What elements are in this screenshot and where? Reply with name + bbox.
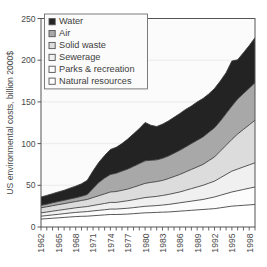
stacked-area-chart: 050100150200250 196219651968197119741977…: [0, 0, 267, 267]
x-tick-label: 1968: [71, 233, 81, 252]
x-tick-label: 1971: [88, 233, 98, 252]
x-tick-label: 1995: [227, 233, 237, 252]
legend-label-solid-waste: Solid waste: [59, 40, 106, 50]
legend-swatch-sewerage: [49, 54, 55, 60]
x-tick-label: 1992: [210, 233, 220, 252]
x-tick-label: 1983: [158, 233, 168, 252]
x-tick-label: 1998: [245, 233, 255, 252]
x-tick-label: 1962: [36, 233, 46, 252]
x-tick-label: 1977: [123, 233, 133, 252]
x-tick-label: 1965: [54, 233, 64, 252]
legend-swatch-solid-waste: [49, 42, 55, 48]
y-axis-title: US environmental costs, billion 2000$: [5, 51, 15, 195]
legend-label-natural-resources: Natural resources: [59, 76, 132, 86]
legend-label-water: Water: [59, 16, 83, 26]
x-tick-label: 1980: [141, 233, 151, 252]
y-tick-label: 250: [21, 14, 36, 24]
y-tick-label: 150: [21, 97, 36, 107]
legend-swatch-air: [49, 31, 55, 37]
y-tick-label: 100: [21, 139, 36, 149]
y-tick-label: 0: [31, 222, 36, 232]
chart-figure: 050100150200250 196219651968197119741977…: [0, 0, 267, 267]
chart-legend: WaterAirSolid wasteSewerageParks & recre…: [45, 14, 148, 89]
x-tick-label: 1986: [175, 233, 185, 252]
legend-label-parks-recreation: Parks & recreation: [59, 64, 135, 74]
y-tick-label: 50: [26, 180, 36, 190]
y-tick-label: 200: [21, 55, 36, 65]
x-tick-label: 1989: [193, 233, 203, 252]
legend-swatch-natural-resources: [49, 78, 55, 84]
y-axis-title-text: US environmental costs, billion 2000$: [5, 51, 15, 195]
legend-swatch-parks-recreation: [49, 66, 55, 72]
legend-label-sewerage: Sewerage: [59, 52, 100, 62]
legend-swatch-water: [49, 19, 55, 25]
legend-label-air: Air: [59, 28, 70, 38]
x-tick-label: 1974: [106, 233, 116, 252]
